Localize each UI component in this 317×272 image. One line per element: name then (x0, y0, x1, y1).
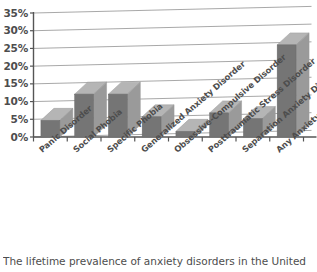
y-tick-label: 0% (0, 132, 28, 142)
bar-chart: 0%5%10%15%20%25%30%35% Panic DisorderSoc… (0, 0, 317, 245)
y-tick-label: 15% (0, 78, 28, 88)
y-tick-label: 25% (0, 43, 28, 53)
gridline (34, 24, 312, 31)
gridline (34, 77, 312, 84)
y-tick-label: 10% (0, 96, 28, 106)
y-tick-label: 20% (0, 61, 28, 71)
figure: 0%5%10%15%20%25%30%35% Panic DisorderSoc… (0, 0, 317, 272)
bar-5 (210, 101, 242, 137)
y-tick-label: 5% (0, 114, 28, 124)
gridline (34, 6, 312, 13)
bar-3 (142, 105, 174, 137)
gridline (34, 60, 312, 67)
bar-0 (41, 108, 73, 137)
bar-4 (176, 119, 208, 137)
gridline (34, 42, 312, 49)
bar-2 (108, 82, 140, 137)
bar-7 (277, 33, 309, 137)
bar-1 (75, 82, 107, 137)
bar-6 (243, 107, 275, 137)
figure-caption: The lifetime prevalence of anxiety disor… (3, 255, 315, 268)
chart-canvas (0, 0, 317, 245)
y-axis-tick-labels: 0%5%10%15%20%25%30%35% (0, 0, 28, 140)
y-tick-label: 35% (0, 8, 28, 18)
y-tick-label: 30% (0, 25, 28, 35)
